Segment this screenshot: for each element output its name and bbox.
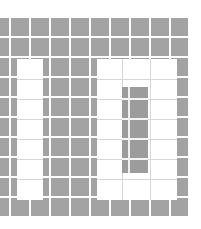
grid-tile xyxy=(91,198,109,216)
grid-tile xyxy=(71,18,89,36)
grid-tile xyxy=(71,178,89,196)
faint-row-line xyxy=(97,179,177,180)
grid-tile xyxy=(71,98,89,116)
inner-block-gap xyxy=(122,138,148,140)
grid-tile xyxy=(171,38,188,56)
grid-tile xyxy=(151,38,169,56)
grid-tile xyxy=(111,18,129,36)
grid-tile xyxy=(0,38,9,56)
grid-tile xyxy=(0,18,9,36)
grid-tile xyxy=(11,38,29,56)
grid-tile xyxy=(131,198,149,216)
grid-tile xyxy=(171,18,188,36)
grid-tile xyxy=(11,198,29,216)
grid-tile xyxy=(151,18,169,36)
grid-tile xyxy=(31,198,49,216)
grid-tile xyxy=(71,158,89,176)
grid-tile xyxy=(0,178,9,196)
faint-row-line xyxy=(17,159,43,160)
grid-tile xyxy=(31,38,49,56)
grid-tile xyxy=(111,38,129,56)
grid-tile xyxy=(51,38,69,56)
grid-tile xyxy=(171,198,188,216)
inner-block-gap xyxy=(122,118,148,120)
grid-tile xyxy=(0,158,9,176)
grid-tile xyxy=(51,98,69,116)
grid-tile xyxy=(111,198,129,216)
grid-tile xyxy=(71,198,89,216)
grid-tile xyxy=(0,78,9,96)
inner-block-divider xyxy=(128,87,130,173)
faint-row-line xyxy=(17,179,43,180)
faint-row-line xyxy=(17,139,43,140)
grid-tile xyxy=(71,78,89,96)
grid-tile xyxy=(51,118,69,136)
faint-row-line xyxy=(97,79,177,80)
faint-row-line xyxy=(17,79,43,80)
grid-tile xyxy=(11,18,29,36)
grid-tile xyxy=(91,38,109,56)
grid-tile xyxy=(131,18,149,36)
faint-column-line xyxy=(150,59,151,200)
inner-block-gap xyxy=(122,158,148,160)
grid-tile xyxy=(0,198,9,216)
grid-tile xyxy=(71,58,89,76)
grid-tile xyxy=(51,58,69,76)
grid-tile xyxy=(51,138,69,156)
inner-block-gap xyxy=(122,98,148,100)
tile-grid-figure xyxy=(0,0,201,229)
grid-tile xyxy=(51,198,69,216)
grid-tile xyxy=(131,38,149,56)
grid-tile xyxy=(51,178,69,196)
grid-tile xyxy=(31,18,49,36)
grid-tile xyxy=(91,18,109,36)
grid-tile xyxy=(71,118,89,136)
grid-tile xyxy=(51,18,69,36)
faint-row-line xyxy=(17,119,43,120)
grid-tile xyxy=(0,118,9,136)
grid-tile xyxy=(71,138,89,156)
grid-tile xyxy=(51,78,69,96)
grid-tile xyxy=(151,198,169,216)
grid-tile xyxy=(71,38,89,56)
grid-tile xyxy=(51,158,69,176)
grid-tile xyxy=(0,58,9,76)
faint-row-line xyxy=(17,99,43,100)
grid-tile xyxy=(0,98,9,116)
grid-tile xyxy=(0,138,9,156)
